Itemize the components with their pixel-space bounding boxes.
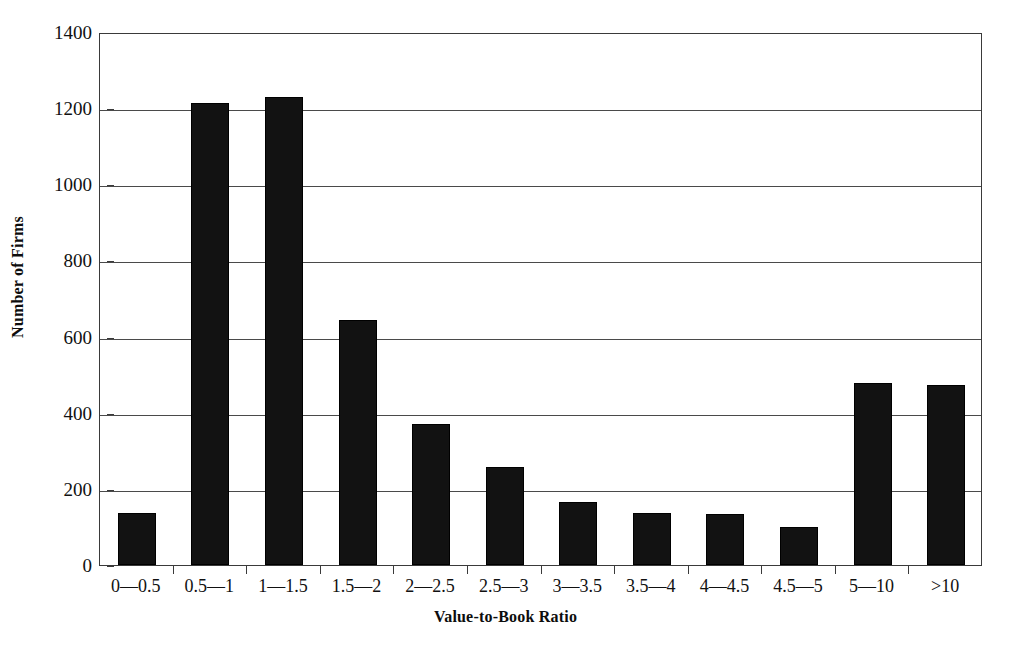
y-tick-mark [107,261,114,262]
bar [559,502,597,565]
x-axis-title: Value-to-Book Ratio [0,608,1011,626]
bar [927,385,965,565]
y-tick-label: 0 [22,556,92,575]
y-tick-label: 1000 [22,175,92,194]
bar [191,103,229,565]
bar [118,513,156,565]
x-tick-mark [467,566,468,574]
y-tick-label: 800 [22,251,92,270]
x-tick-mark [393,566,394,574]
x-tick-label: 2.5—3 [467,577,541,597]
y-tick-mark [107,566,114,567]
plot-area [99,33,982,566]
x-tick-label: 1.5—2 [320,577,394,597]
x-tick-mark [320,566,321,574]
y-tick-mark [107,109,114,110]
bar [412,424,450,565]
x-tick-mark [761,566,762,574]
gridline [100,491,981,492]
y-tick-label: 600 [22,328,92,347]
bar [706,514,744,565]
x-tick-mark [908,566,909,574]
y-axis-title: Number of Firms [9,197,27,357]
bar [265,97,303,565]
bar [486,467,524,565]
y-tick-mark [107,33,114,34]
x-tick-label: 2—2.5 [393,577,467,597]
gridline [100,186,981,187]
bar [633,513,671,565]
gridline [100,415,981,416]
y-tick-mark [107,338,114,339]
x-tick-mark [541,566,542,574]
bar [339,320,377,565]
x-tick-label: 3—3.5 [541,577,615,597]
gridline [100,110,981,111]
y-tick-mark [107,414,114,415]
x-tick-mark [835,566,836,574]
y-tick-label: 200 [22,480,92,499]
y-tick-label: 400 [22,404,92,423]
x-tick-label: 4.5—5 [761,577,835,597]
x-tick-label: 0.5—1 [173,577,247,597]
x-tick-label: >10 [908,577,982,597]
bar [780,527,818,565]
x-tick-mark [688,566,689,574]
bar-chart: 0200400600800100012001400 Number of Firm… [0,0,1011,648]
y-tick-mark [107,185,114,186]
bar [854,383,892,565]
x-tick-mark [614,566,615,574]
x-tick-mark [246,566,247,574]
gridline [100,339,981,340]
gridline [100,262,981,263]
y-tick-label: 1200 [22,99,92,118]
x-tick-label: 0—0.5 [99,577,173,597]
x-tick-label: 1—1.5 [246,577,320,597]
x-tick-label: 3.5—4 [614,577,688,597]
x-tick-label: 5—10 [835,577,909,597]
x-tick-label: 4—4.5 [688,577,762,597]
y-tick-label: 1400 [22,23,92,42]
y-tick-mark [107,490,114,491]
x-tick-mark [173,566,174,574]
